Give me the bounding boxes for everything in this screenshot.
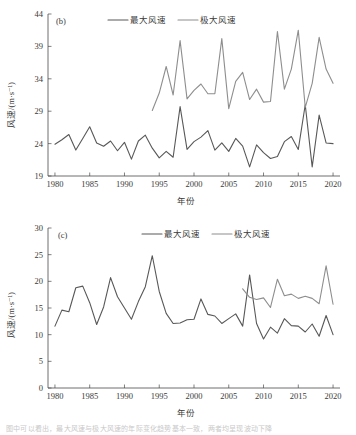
chart-c-svg: 051015202530 198019851990199520002005201… [0, 210, 356, 422]
figure-caption-text: 图中可以看出，最大风速与极大风速的年际变化趋势基本一致，两者均呈现波动下降 [0, 424, 356, 435]
x-tick-label: 1990 [116, 179, 133, 189]
y-tick-label: 20 [35, 276, 44, 286]
x-tick-label: 1990 [116, 391, 133, 401]
y-tick-label: 24 [35, 139, 44, 149]
x-tick-label: 2010 [255, 391, 272, 401]
chart-c-series-max-wind [55, 256, 333, 339]
wind-speed-figure: 192429343944 198019851990199520002005201… [0, 0, 356, 435]
chart-b-x-axis-title: 年份 [177, 196, 195, 206]
x-tick-label: 1980 [46, 179, 63, 189]
chart-panel-b: 192429343944 198019851990199520002005201… [0, 0, 356, 210]
chart-c-y-tick-labels: 051015202530 [35, 223, 44, 393]
y-tick-label: 34 [35, 74, 44, 84]
x-tick-label: 1980 [46, 391, 63, 401]
x-tick-label: 2015 [290, 391, 307, 401]
y-tick-label: 10 [35, 330, 44, 340]
chart-b-svg: 192429343944 198019851990199520002005201… [0, 0, 356, 210]
chart-b-panel-tag: (b) [56, 16, 66, 26]
x-tick-label: 2005 [220, 391, 237, 401]
chart-c-tick-marks [48, 228, 333, 388]
chart-panel-c: 051015202530 198019851990199520002005201… [0, 210, 356, 422]
y-tick-label: 15 [35, 303, 44, 313]
x-tick-label: 1995 [151, 391, 168, 401]
chart-c-y-axis-title: 风速/(m·s⁻¹) [6, 292, 16, 338]
x-tick-label: 2000 [186, 179, 203, 189]
chart-b-y-tick-labels: 192429343944 [35, 9, 44, 181]
chart-b-legend-label-extreme-wind: 极大风速 [200, 15, 236, 25]
chart-b-y-axis-title: 风速/(m·s⁻¹) [6, 82, 16, 128]
y-tick-label: 19 [35, 171, 44, 181]
chart-b-series-extreme-wind [152, 30, 333, 110]
x-tick-label: 2005 [220, 179, 237, 189]
x-tick-label: 2000 [186, 391, 203, 401]
chart-c-panel-tag: (c) [58, 230, 68, 240]
chart-b-legend-label-max-wind: 最大风速 [130, 15, 166, 25]
y-tick-label: 29 [35, 106, 44, 116]
y-tick-label: 39 [35, 41, 44, 51]
x-tick-label: 2020 [325, 179, 342, 189]
y-tick-label: 44 [35, 9, 44, 19]
chart-c-legend-label-max-wind: 最大风速 [164, 229, 200, 239]
chart-c-x-tick-labels: 198019851990199520002005201020152020 [46, 391, 341, 401]
chart-c-series-extreme-wind [243, 266, 333, 308]
x-tick-label: 1995 [151, 179, 168, 189]
chart-b-x-tick-labels: 198019851990199520002005201020152020 [46, 179, 341, 189]
x-tick-label: 2010 [255, 179, 272, 189]
x-tick-label: 1985 [81, 391, 98, 401]
figure-caption-strip: 图中可以看出，最大风速与极大风速的年际变化趋势基本一致，两者均呈现波动下降 [0, 424, 356, 435]
x-tick-label: 1985 [81, 179, 98, 189]
chart-c-x-axis-title: 年份 [177, 408, 195, 418]
x-tick-label: 2015 [290, 179, 307, 189]
chart-b-series-max-wind [55, 105, 333, 167]
chart-c-legend-label-extreme-wind: 极大风速 [234, 229, 270, 239]
y-tick-label: 0 [39, 383, 43, 393]
y-tick-label: 25 [35, 250, 44, 260]
y-tick-label: 30 [35, 223, 44, 233]
y-tick-label: 5 [39, 356, 43, 366]
x-tick-label: 2020 [325, 391, 342, 401]
